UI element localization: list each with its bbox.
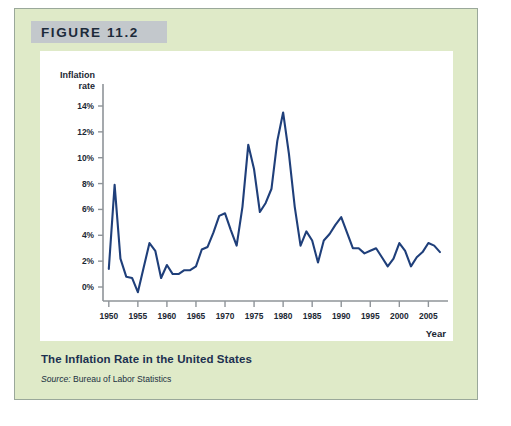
caption-source: Source: Bureau of Labor Statistics: [41, 374, 461, 384]
y-axis-tick-label: 8%: [82, 179, 95, 189]
y-axis-tick-label: 14%: [77, 101, 94, 111]
x-axis-tick-label: 2000: [390, 311, 409, 321]
figure-panel: FIGURE 11.2 0%2%4%6%8%10%12%14%195019551…: [14, 8, 478, 400]
x-axis-title: Year: [426, 328, 447, 339]
x-axis-tick-label: 1975: [245, 311, 264, 321]
x-axis-tick-label: 1960: [158, 311, 177, 321]
figure-number-label: FIGURE 11.2: [41, 25, 139, 40]
x-axis-tick-label: 1985: [303, 311, 322, 321]
x-axis-tick-label: 1980: [274, 311, 293, 321]
y-axis-tick-label: 12%: [77, 127, 94, 137]
source-text-label: Bureau of Labor Statistics: [73, 374, 171, 384]
y-axis-title-line1: Inflation: [60, 70, 95, 80]
y-axis-title-line2: rate: [78, 81, 95, 91]
y-axis-tick-label: 4%: [82, 230, 95, 240]
y-axis-tick-label: 6%: [82, 204, 95, 214]
y-axis-tick-label: 2%: [82, 256, 95, 266]
inflation-rate-line-chart: 0%2%4%6%8%10%12%14%195019551960196519701…: [40, 51, 453, 341]
x-axis-tick-label: 1965: [187, 311, 206, 321]
y-axis-tick-label: 10%: [77, 153, 94, 163]
caption-block: The Inflation Rate in the United States …: [41, 353, 461, 384]
data-series-line: [109, 112, 440, 292]
figure-number-badge: FIGURE 11.2: [31, 21, 167, 43]
x-axis-tick-label: 1970: [216, 311, 235, 321]
y-axis-tick-label: 0%: [82, 282, 95, 292]
x-axis-tick-label: 1950: [99, 311, 118, 321]
caption-title: The Inflation Rate in the United States: [41, 353, 461, 365]
chart-plot-card: 0%2%4%6%8%10%12%14%195019551960196519701…: [40, 51, 453, 341]
x-axis-tick-label: 1955: [129, 311, 148, 321]
x-axis-tick-label: 1995: [361, 311, 380, 321]
x-axis-tick-label: 1990: [332, 311, 351, 321]
source-prefix-label: Source:: [41, 374, 71, 384]
x-axis-tick-label: 2005: [419, 311, 438, 321]
